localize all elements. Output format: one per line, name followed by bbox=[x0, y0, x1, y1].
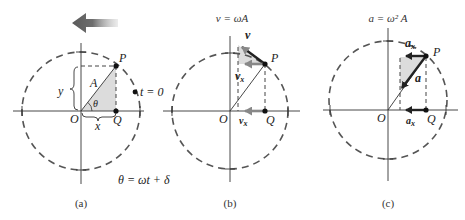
caption-b: (b) bbox=[224, 197, 237, 210]
panel-a: P Q O A y x θ t = 0 θ = ωt + δ (a) bbox=[13, 13, 170, 210]
y-brace bbox=[70, 67, 78, 110]
label-a: a bbox=[415, 71, 421, 85]
label-y: y bbox=[57, 84, 64, 98]
label-ax-bottom: ax bbox=[406, 115, 415, 128]
label-v: v bbox=[245, 28, 251, 42]
panel-b: v = ωA v P vx O vx Q (b) bbox=[163, 12, 300, 210]
label-q: Q bbox=[266, 113, 275, 127]
rotation-direction-arrow-icon bbox=[72, 13, 118, 33]
label-t-equals-0: t = 0 bbox=[140, 85, 163, 99]
caption-a: (a) bbox=[75, 197, 88, 210]
label-amplitude: A bbox=[89, 76, 98, 90]
point-p-dot bbox=[113, 63, 118, 68]
label-x: x bbox=[94, 119, 101, 133]
label-vx-top: vx bbox=[235, 69, 244, 84]
label-o: O bbox=[377, 111, 386, 125]
label-p: P bbox=[270, 51, 279, 65]
velocity-title: v = ωA bbox=[216, 12, 249, 24]
point-p-dot bbox=[423, 53, 428, 58]
acceleration-title: a = ω² A bbox=[369, 12, 408, 24]
t0-dot bbox=[133, 90, 138, 95]
label-q: Q bbox=[113, 113, 122, 127]
label-ax-top: ax bbox=[405, 36, 415, 51]
point-p-dot bbox=[262, 61, 267, 66]
label-vx-bottom: vx bbox=[239, 115, 247, 128]
label-q: Q bbox=[427, 112, 436, 126]
label-o: O bbox=[70, 112, 79, 126]
circular-motion-diagram: P Q O A y x θ t = 0 θ = ωt + δ (a) v = ω… bbox=[0, 0, 465, 220]
caption-c: (c) bbox=[382, 197, 395, 210]
label-p: P bbox=[432, 45, 441, 59]
phase-equation: θ = ωt + δ bbox=[118, 173, 170, 187]
panel-c: a = ω² A ax P a O ax Q (c) bbox=[323, 12, 458, 210]
label-p: P bbox=[118, 51, 127, 65]
label-theta: θ bbox=[93, 98, 98, 109]
label-o: O bbox=[219, 112, 228, 126]
